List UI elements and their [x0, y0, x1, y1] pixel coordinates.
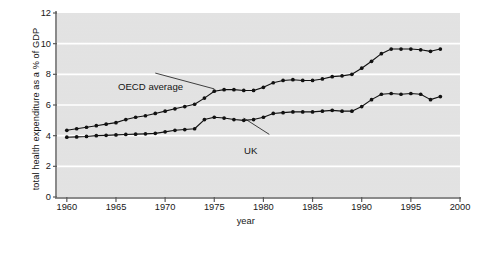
data-point-0-31	[370, 59, 374, 63]
data-point-1-38	[438, 95, 442, 99]
data-point-1-29	[350, 109, 354, 113]
x-tick-1990: 1990	[342, 202, 382, 212]
data-point-0-33	[389, 47, 393, 51]
annotation-uk: UK	[244, 145, 257, 156]
series-line-1	[67, 94, 441, 138]
data-point-0-10	[163, 109, 167, 113]
data-point-0-28	[340, 74, 344, 78]
data-point-0-37	[429, 49, 433, 53]
data-point-0-9	[153, 112, 157, 116]
data-point-1-9	[153, 132, 157, 136]
data-point-0-19	[252, 89, 256, 93]
data-point-0-22	[281, 79, 285, 83]
data-point-1-8	[144, 132, 148, 136]
data-point-1-22	[281, 111, 285, 115]
data-point-0-26	[321, 77, 325, 81]
data-point-0-18	[242, 89, 246, 93]
data-point-0-30	[360, 66, 364, 70]
data-point-0-32	[380, 52, 384, 56]
data-point-0-7	[134, 115, 138, 119]
data-point-1-11	[173, 128, 177, 132]
data-point-0-34	[399, 47, 403, 51]
x-tick-1965: 1965	[96, 202, 136, 212]
chart-figure: total health expenditure as a % of GDP 0…	[0, 0, 489, 258]
x-axis-label: year	[237, 216, 255, 226]
data-point-0-1	[75, 127, 79, 131]
data-point-1-15	[212, 115, 216, 119]
data-point-1-30	[360, 105, 364, 109]
data-point-0-36	[419, 48, 423, 52]
data-point-1-25	[311, 110, 315, 114]
data-point-1-14	[203, 118, 207, 122]
x-tick-1970: 1970	[145, 202, 185, 212]
data-point-1-35	[409, 92, 413, 96]
data-point-1-16	[222, 116, 226, 120]
data-point-0-21	[271, 81, 275, 85]
data-point-0-16	[222, 88, 226, 92]
data-point-1-19	[252, 118, 256, 122]
data-point-1-26	[321, 109, 325, 113]
data-point-1-10	[163, 130, 167, 134]
data-point-1-32	[380, 92, 384, 96]
data-point-1-33	[389, 92, 393, 96]
data-point-0-24	[301, 79, 305, 83]
data-point-1-13	[193, 127, 197, 131]
data-point-0-11	[173, 107, 177, 111]
data-point-0-0	[65, 128, 69, 132]
x-tick-1985: 1985	[293, 202, 333, 212]
data-point-1-21	[271, 112, 275, 116]
data-point-0-29	[350, 72, 354, 76]
data-point-1-27	[330, 109, 334, 113]
data-point-1-23	[291, 110, 295, 114]
data-point-0-23	[291, 78, 295, 82]
data-point-1-37	[429, 98, 433, 102]
data-point-0-27	[330, 75, 334, 79]
x-tick-1995: 1995	[391, 202, 431, 212]
data-point-1-12	[183, 128, 187, 132]
data-point-1-4	[104, 134, 108, 138]
x-tick-1980: 1980	[243, 202, 283, 212]
data-point-0-17	[232, 88, 236, 92]
data-point-0-4	[104, 122, 108, 126]
data-point-1-5	[114, 133, 118, 137]
data-point-1-1	[75, 135, 79, 139]
x-tick-1975: 1975	[194, 202, 234, 212]
annotation-oecd-average: OECD average	[118, 81, 183, 92]
data-point-1-20	[262, 115, 266, 119]
data-point-0-2	[85, 125, 89, 129]
data-point-1-3	[94, 134, 98, 138]
data-point-0-12	[183, 105, 187, 109]
annotation-leader-1	[244, 118, 270, 134]
data-point-0-38	[438, 47, 442, 51]
data-point-1-34	[399, 92, 403, 96]
data-point-1-36	[419, 92, 423, 96]
data-point-1-31	[370, 98, 374, 102]
data-point-0-14	[203, 96, 207, 100]
data-point-1-0	[65, 135, 69, 139]
data-point-1-17	[232, 118, 236, 122]
data-point-0-25	[311, 79, 315, 83]
x-axis-tick-labels: 196019651970197519801985199019952000	[0, 202, 489, 216]
data-point-1-6	[124, 133, 128, 137]
data-point-1-7	[134, 132, 138, 136]
data-point-0-13	[193, 102, 197, 106]
data-point-0-3	[94, 124, 98, 128]
data-point-0-5	[114, 121, 118, 125]
data-point-0-20	[262, 86, 266, 90]
x-tick-1960: 1960	[47, 202, 87, 212]
x-tick-2000: 2000	[440, 202, 480, 212]
data-point-1-24	[301, 110, 305, 114]
data-point-1-2	[85, 135, 89, 139]
data-point-1-28	[340, 109, 344, 113]
data-point-0-6	[124, 118, 128, 122]
data-point-0-15	[212, 89, 216, 93]
data-point-0-35	[409, 47, 413, 51]
data-point-0-8	[144, 114, 148, 118]
